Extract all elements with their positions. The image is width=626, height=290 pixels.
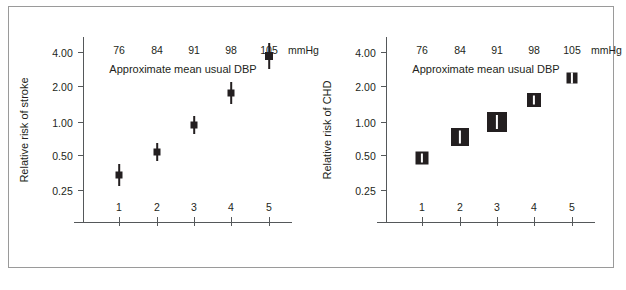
plot-area-stroke: Relative risk of stroke 4.00 2.00 1.00 0… <box>83 37 283 222</box>
x-category-label-chd: 1 <box>419 201 425 213</box>
y-tick-label-chd: 1.00 <box>355 117 376 129</box>
y-axis-label-stroke: Relative risk of stroke <box>18 77 30 182</box>
x-tick-label-stroke: 98 <box>225 44 237 56</box>
x-tick-stroke <box>119 217 120 226</box>
x-category-label-chd: 2 <box>457 201 463 213</box>
x-category-label-stroke: 1 <box>116 201 122 213</box>
x-tick-label-stroke: 76 <box>113 44 125 56</box>
x-category-label-chd: 5 <box>569 201 575 213</box>
x-category-label-chd: 4 <box>531 201 537 213</box>
x-tick-label-chd: 91 <box>491 44 503 56</box>
panel-chd: Relative risk of CHD 4.00 2.00 1.00 0.50… <box>312 7 615 267</box>
x-tick-label-chd: 105 <box>563 44 581 56</box>
marker-square <box>154 149 161 156</box>
y-tick-chd: 0.50 <box>381 155 386 156</box>
x-tick-chd <box>534 217 535 226</box>
y-tick-label-stroke: 2.00 <box>52 81 73 93</box>
x-tick-label-stroke: 91 <box>188 44 200 56</box>
error-bar <box>421 154 423 163</box>
x-tick-label-chd: 98 <box>528 44 540 56</box>
y-tick-label-stroke: 4.00 <box>52 47 73 59</box>
x-tick-chd <box>422 217 423 226</box>
x-axis-label-chd: Approximate mean usual DBP <box>377 63 595 75</box>
y-axis-label-chd: Relative risk of CHD <box>321 80 333 179</box>
y-tick-label-chd: 4.00 <box>355 47 376 59</box>
figure-frame: Relative risk of stroke 4.00 2.00 1.00 0… <box>8 6 614 268</box>
x-axis-label-stroke: Approximate mean usual DBP <box>74 63 292 75</box>
y-tick-label-chd: 0.50 <box>355 150 376 162</box>
x-axis-unit-chd: mmHg <box>591 44 622 56</box>
x-category-label-stroke: 4 <box>228 201 234 213</box>
y-tick-stroke: 0.25 <box>78 190 83 191</box>
y-tick-chd: 4.00 <box>381 52 386 53</box>
error-bar <box>496 115 498 129</box>
x-category-label-stroke: 3 <box>191 201 197 213</box>
marker-square <box>228 90 235 97</box>
y-tick-label-stroke: 0.25 <box>52 185 73 197</box>
marker-square <box>265 52 273 60</box>
panel-stroke: Relative risk of stroke 4.00 2.00 1.00 0… <box>9 7 312 267</box>
y-tick-stroke: 1.00 <box>78 122 83 123</box>
x-axis-line-chd <box>377 222 595 223</box>
y-tick-label-stroke: 0.50 <box>52 150 73 162</box>
figure-container: Relative risk of stroke 4.00 2.00 1.00 0… <box>0 0 626 290</box>
y-tick-label-chd: 0.25 <box>355 185 376 197</box>
marker-square <box>191 122 198 129</box>
x-tick-chd <box>497 217 498 226</box>
x-category-label-chd: 3 <box>494 201 500 213</box>
marker-square <box>116 172 123 179</box>
plot-area-chd: Relative risk of CHD 4.00 2.00 1.00 0.50… <box>386 37 586 222</box>
y-tick-stroke: 4.00 <box>78 52 83 53</box>
x-tick-stroke <box>231 217 232 226</box>
y-tick-label-stroke: 1.00 <box>52 117 73 129</box>
x-tick-label-stroke: 84 <box>151 44 163 56</box>
y-tick-stroke: 0.50 <box>78 155 83 156</box>
x-tick-stroke <box>269 217 270 226</box>
x-tick-chd <box>572 217 573 226</box>
y-tick-chd: 0.25 <box>381 190 386 191</box>
x-axis-line-stroke <box>74 222 292 223</box>
x-category-label-stroke: 5 <box>266 201 272 213</box>
y-tick-label-chd: 2.00 <box>355 81 376 93</box>
y-tick-chd: 1.00 <box>381 122 386 123</box>
x-tick-stroke <box>157 217 158 226</box>
error-bar <box>571 73 573 84</box>
x-category-label-stroke: 2 <box>154 201 160 213</box>
x-tick-label-chd: 84 <box>454 44 466 56</box>
error-bar <box>459 131 461 144</box>
y-tick-stroke: 2.00 <box>78 86 83 87</box>
x-tick-stroke <box>194 217 195 226</box>
x-tick-chd <box>460 217 461 226</box>
error-bar <box>533 96 535 105</box>
x-tick-label-chd: 76 <box>416 44 428 56</box>
y-tick-chd: 2.00 <box>381 86 386 87</box>
